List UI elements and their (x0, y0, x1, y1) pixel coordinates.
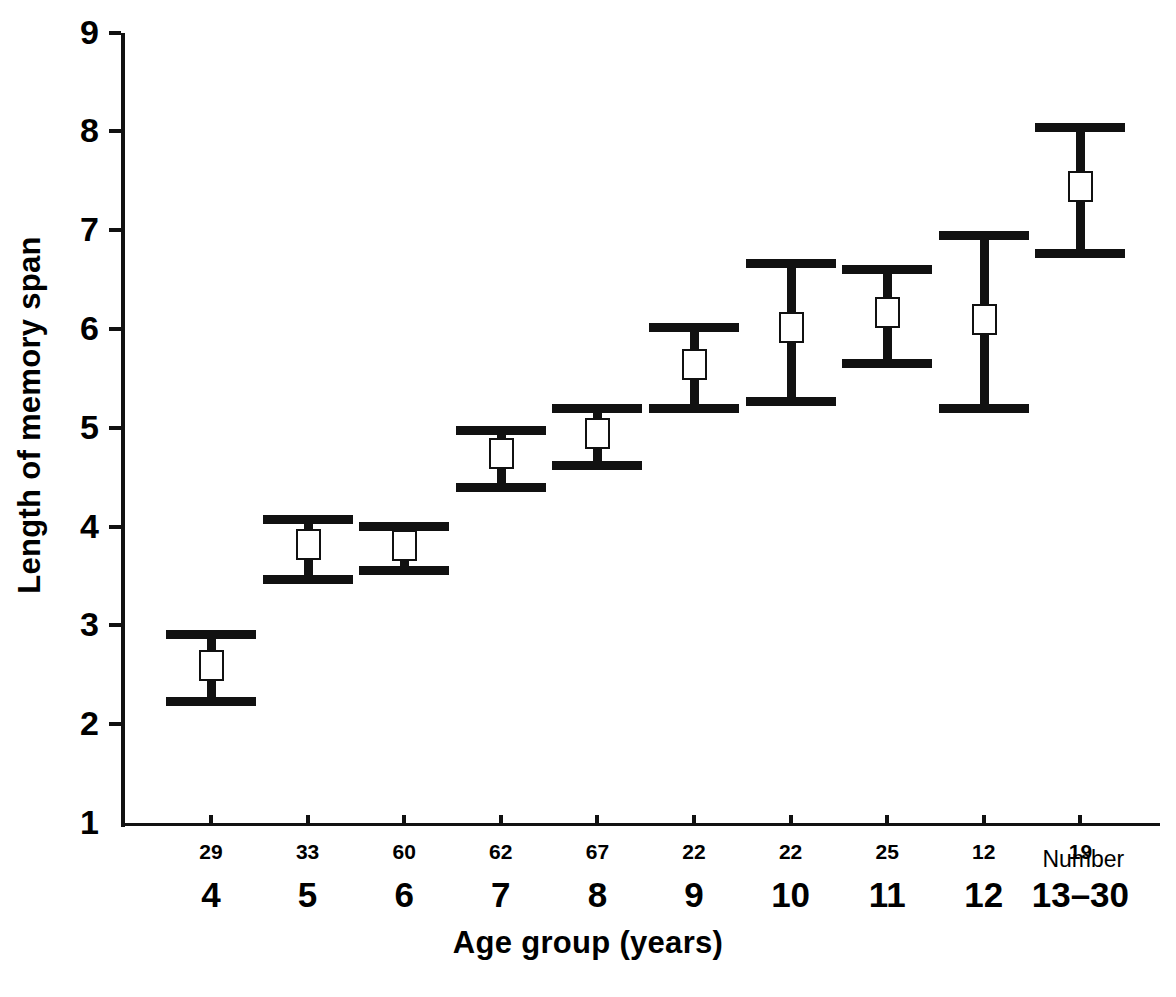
sample-count-label: 60 (359, 841, 449, 862)
data-marker-square (296, 529, 321, 560)
sample-count-label: 25 (842, 841, 932, 862)
x-tick-label: 13–30 (1010, 877, 1150, 912)
number-annotation: Number (1042, 848, 1124, 871)
y-tick-label: 5 (55, 410, 99, 444)
sample-count-label: 29 (166, 841, 256, 862)
x-tick-mark (209, 815, 213, 826)
y-tick-mark (109, 623, 121, 627)
y-tick-mark (109, 129, 121, 133)
error-bar-cap-lower (649, 404, 739, 413)
error-bar-cap-lower (552, 461, 642, 470)
data-marker-square (489, 438, 514, 469)
chart-figure: Length of memory span 123456789294335606… (0, 0, 1176, 997)
y-tick-label: 2 (55, 706, 99, 740)
y-tick-mark (109, 228, 121, 232)
error-bar-cap-lower (842, 359, 932, 368)
y-tick-mark (109, 525, 121, 529)
x-tick-mark (595, 815, 599, 826)
sample-count-label: 22 (649, 841, 739, 862)
x-tick-mark (499, 815, 503, 826)
data-marker-square (875, 297, 900, 328)
error-bar-cap-lower (359, 566, 449, 575)
error-bar-cap-lower (456, 483, 546, 492)
x-tick-mark (982, 815, 986, 826)
y-tick-label: 4 (55, 509, 99, 543)
sample-count-label: 12 (939, 841, 1029, 862)
y-tick-label: 9 (55, 15, 99, 49)
x-axis-line (121, 823, 1160, 826)
data-marker-square (1068, 171, 1093, 202)
y-tick-label: 7 (55, 212, 99, 246)
error-bar-cap-lower (166, 697, 256, 706)
x-tick-mark (402, 815, 406, 826)
sample-count-label: 62 (456, 841, 546, 862)
y-tick-label: 8 (55, 113, 99, 147)
y-tick-mark (109, 327, 121, 331)
y-tick-mark (109, 31, 121, 35)
x-tick-mark (789, 815, 793, 826)
error-bar-cap-lower (939, 404, 1029, 413)
y-tick-mark (109, 426, 121, 430)
x-tick-mark (1078, 815, 1082, 826)
data-marker-square (682, 349, 707, 380)
error-bar-cap-lower (1035, 249, 1125, 258)
y-tick-mark (109, 722, 121, 726)
data-marker-square (392, 530, 417, 561)
data-marker-square (972, 304, 997, 335)
x-axis-title: Age group (years) (0, 925, 1176, 961)
sample-count-label: 33 (263, 841, 353, 862)
x-tick-mark (692, 815, 696, 826)
data-marker-square (199, 650, 224, 681)
data-marker-square (585, 418, 610, 449)
y-tick-label: 1 (55, 805, 99, 839)
data-marker-square (779, 312, 804, 343)
plot-area: 1234567892943356066276782292210251112121… (0, 0, 1176, 997)
error-bar-cap-lower (263, 575, 353, 584)
y-axis-line (121, 33, 125, 827)
error-bar-cap-lower (746, 397, 836, 406)
y-tick-label: 6 (55, 311, 99, 345)
sample-count-label: 67 (552, 841, 642, 862)
x-tick-mark (885, 815, 889, 826)
y-tick-label: 3 (55, 607, 99, 641)
x-tick-mark (306, 815, 310, 826)
sample-count-label: 22 (746, 841, 836, 862)
